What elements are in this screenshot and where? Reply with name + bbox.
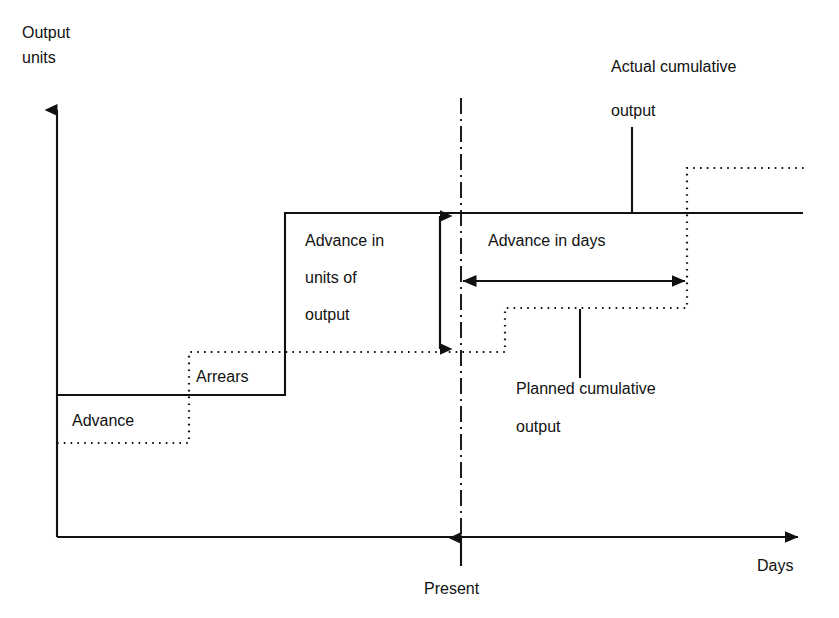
series-actual-cumulative-output (57, 213, 803, 395)
diagram-svg (0, 0, 839, 618)
planned-cumulative-output-label-line2: output (516, 416, 560, 438)
planned-step-path (57, 168, 805, 443)
actual-cumulative-output-label-line2: output (611, 100, 655, 122)
advance-in-units-label-line2: units of (305, 267, 357, 289)
advance-in-days-label: Advance in days (488, 230, 605, 252)
series-planned-cumulative-output (57, 168, 805, 443)
advance-in-units-label-line1: Advance in (305, 230, 384, 252)
present-label: Present (424, 578, 479, 600)
y-axis-label-line2: units (22, 47, 56, 69)
advance-in-units-label-line3: output (305, 304, 349, 326)
diagram-canvas: Output units Days Actual cumulative outp… (0, 0, 839, 618)
planned-cumulative-output-label-line1: Planned cumulative (516, 378, 656, 400)
x-axis-label: Days (757, 555, 793, 577)
advance-label: Advance (72, 410, 134, 432)
y-axis-label-line1: Output (22, 22, 70, 44)
actual-step-path (57, 213, 803, 395)
actual-cumulative-output-label-line1: Actual cumulative (611, 56, 736, 78)
arrears-label: Arrears (196, 366, 248, 388)
